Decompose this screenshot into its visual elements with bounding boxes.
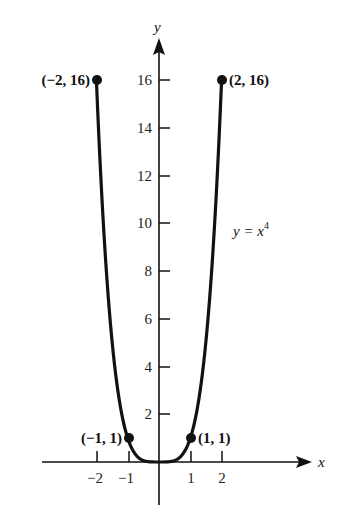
svg-text:1: 1 [187, 470, 195, 486]
svg-text:16: 16 [137, 72, 153, 88]
y-tick-labels: 2 4 6 8 10 12 14 16 [137, 72, 153, 422]
y-axis-label: y [152, 19, 161, 35]
svg-text:2: 2 [218, 470, 226, 486]
svg-text:4: 4 [145, 359, 153, 375]
svg-text:−2: −2 [87, 470, 103, 486]
x-axis-label: x [317, 454, 325, 470]
y-ticks [159, 80, 170, 414]
point-label-neg1-1: (−1, 1) [81, 430, 122, 447]
svg-text:−1: −1 [118, 470, 134, 486]
svg-text:10: 10 [137, 215, 152, 231]
equation-label: y = x4 [231, 220, 269, 239]
svg-text:8: 8 [145, 263, 153, 279]
chart: x y 2 4 6 8 10 12 14 16 −2 −1 1 2 [0, 0, 345, 527]
point-label-neg2-16: (−2, 16) [41, 72, 90, 89]
svg-text:2: 2 [145, 406, 153, 422]
point-label-2-16: (2, 16) [229, 72, 269, 89]
svg-text:14: 14 [137, 120, 153, 136]
svg-text:12: 12 [137, 168, 152, 184]
svg-text:6: 6 [145, 311, 153, 327]
point-label-1-1: (1, 1) [198, 430, 231, 447]
x-tick-labels: −2 −1 1 2 [87, 470, 226, 486]
